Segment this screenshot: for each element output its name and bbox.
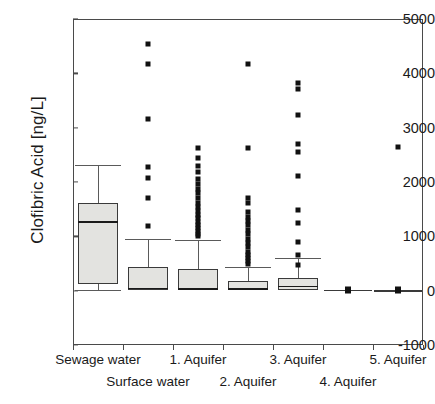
outlier-point (246, 209, 251, 214)
upper-whisker-cap-4 (275, 258, 321, 259)
x-tick-mark (223, 345, 224, 350)
y-tick-label: -1000 (379, 337, 435, 353)
outlier-point (146, 116, 151, 121)
outlier-point (196, 170, 201, 175)
lower-whisker-cap-0 (75, 290, 121, 291)
boxplot-chart: Clofibric Acid [ng/L] 500040003000200010… (0, 0, 435, 404)
outlier-point (146, 175, 151, 180)
outlier-point (296, 220, 301, 225)
x-tick-mark (373, 345, 374, 350)
y-tick-mark (73, 73, 78, 74)
outlier-point (296, 174, 301, 179)
median-line-3 (228, 288, 268, 290)
x-tick-label-1: Surface water (106, 374, 189, 389)
outlier-point (296, 141, 301, 146)
x-tick-label-3: 2. Aquifer (219, 374, 276, 389)
y-tick-label: 3000 (379, 120, 435, 136)
x-tick-label-5: 4. Aquifer (319, 374, 376, 389)
x-tick-label-6: 5. Aquifer (369, 352, 426, 367)
upper-whisker-0 (98, 165, 99, 203)
y-tick-mark (73, 18, 78, 19)
x-tick-mark (273, 345, 274, 350)
outlier-point (296, 113, 301, 118)
upper-whisker-cap-1 (125, 239, 171, 240)
box-4 (278, 278, 318, 290)
box-2 (178, 269, 218, 290)
outlier-point (296, 239, 301, 244)
x-tick-mark (323, 345, 324, 350)
x-tick-mark (123, 345, 124, 350)
outlier-point (246, 261, 251, 266)
outlier-point (146, 165, 151, 170)
upper-whisker-3 (248, 267, 249, 281)
upper-whisker-1 (148, 239, 149, 267)
outlier-point (196, 233, 201, 238)
y-tick-label: 4000 (379, 65, 435, 81)
upper-whisker-cap-2 (175, 240, 221, 241)
outlier-point (146, 61, 151, 66)
x-tick-mark (173, 345, 174, 350)
y-tick-mark (73, 127, 78, 128)
outlier-point (296, 207, 301, 212)
x-tick-label-0: Sewage water (55, 352, 141, 367)
outlier-point (196, 146, 201, 151)
median-line-0 (78, 221, 118, 223)
y-tick-label: 2000 (379, 174, 435, 190)
y-tick-label: 1000 (379, 228, 435, 244)
outlier-point (196, 176, 201, 181)
outlier-point (296, 80, 301, 85)
plot-area (73, 19, 423, 345)
outlier-point (146, 41, 151, 46)
outlier-point (146, 224, 151, 229)
outlier-point (196, 155, 201, 160)
flat-box-marker-5 (345, 286, 351, 293)
outlier-point (246, 146, 251, 151)
x-tick-mark (73, 345, 74, 350)
outlier-point (296, 86, 301, 91)
outlier-point (296, 149, 301, 154)
outlier-point (396, 144, 401, 149)
x-tick-mark (423, 345, 424, 350)
outlier-point (246, 200, 251, 205)
upper-whisker-4 (298, 258, 299, 278)
outlier-point (146, 196, 151, 201)
x-tick-label-4: 3. Aquifer (269, 352, 326, 367)
upper-whisker-cap-3 (225, 267, 271, 268)
y-tick-mark (73, 181, 78, 182)
upper-whisker-cap-0 (75, 165, 121, 166)
y-axis-label: Clofibric Acid [ng/L] (28, 40, 48, 300)
outlier-point (196, 163, 201, 168)
x-tick-label-2: 1. Aquifer (169, 352, 226, 367)
outlier-point (246, 61, 251, 66)
upper-whisker-2 (198, 240, 199, 269)
median-line-1 (128, 288, 168, 290)
box-0 (78, 203, 118, 285)
y-tick-label: 5000 (379, 11, 435, 27)
outlier-point (296, 252, 301, 257)
flat-box-marker-6 (395, 287, 401, 294)
outlier-point (296, 262, 301, 267)
median-line-4 (278, 286, 318, 288)
median-line-2 (178, 288, 218, 290)
